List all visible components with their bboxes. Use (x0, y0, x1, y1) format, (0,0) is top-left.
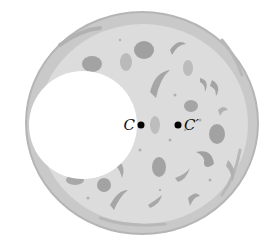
pizza-center-of-mass-diagram: C C′ (0, 0, 268, 246)
point-C-prime-dot (175, 122, 182, 129)
diagram-canvas: C C′ (0, 0, 268, 246)
point-C-label: C (124, 116, 136, 134)
point-C-prime-label: C′ (184, 116, 199, 134)
point-C-dot (138, 122, 145, 129)
